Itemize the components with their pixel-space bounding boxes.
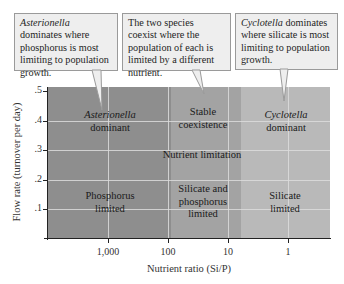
x-axis-title: Nutrient ratio (Si/P) (147, 263, 231, 274)
x-tick (228, 238, 229, 243)
y-tick (43, 91, 48, 92)
y-tick (43, 121, 48, 122)
y-tick (43, 150, 48, 151)
x-tick-label: 1,000 (97, 246, 120, 257)
y-tick-label: .5 (24, 84, 42, 95)
y-axis-title: Flow rate (turnover per day) (11, 103, 22, 222)
pointer-cyclotella (280, 69, 288, 101)
y-tick (43, 180, 48, 181)
y-axis (47, 87, 48, 240)
pointer-coexistence (192, 70, 204, 94)
x-tick (168, 238, 169, 243)
y-tick-label: .2 (24, 173, 42, 184)
pointer-asterionella (92, 70, 102, 110)
x-tick-label: 10 (223, 246, 233, 257)
x-tick (288, 238, 289, 243)
y-tick-label: .3 (24, 143, 42, 154)
x-tick-label: 1 (286, 246, 291, 257)
y-tick-label: .1 (24, 202, 42, 213)
y-tick-label: .4 (24, 114, 42, 125)
callout-pointers (0, 0, 344, 284)
y-tick (43, 209, 48, 210)
x-tick (108, 238, 109, 243)
x-tick-label: 100 (161, 246, 176, 257)
